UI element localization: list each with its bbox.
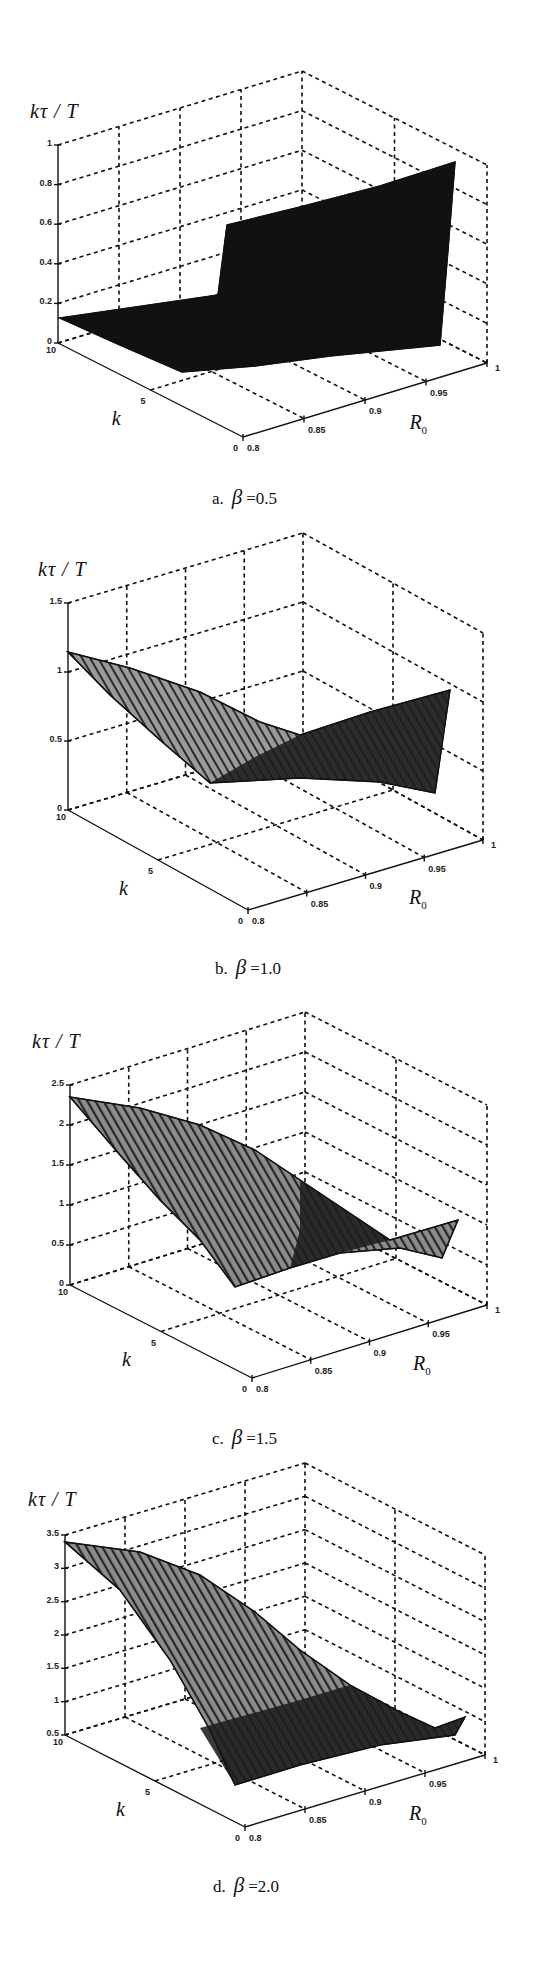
r0-tick-label: 0.95 [429,1779,447,1789]
z-tick-label: 0.2 [30,296,52,306]
z-tick-label: 1 [37,1695,59,1705]
z-tick-label: 0.5 [42,1238,64,1248]
k-axis [70,1285,252,1378]
k-tick-label: 0 [242,1384,247,1394]
z-tick-label: 1.5 [37,1661,59,1671]
grid-line [158,790,393,860]
caption-letter: c. [212,1429,224,1448]
z-axis-label: kτ / T [30,100,79,123]
z-tick-label: 0.5 [40,734,62,744]
chart-panel-a [54,71,487,441]
surface [68,652,450,793]
panel-caption-a: a.β=0.5 [212,485,277,510]
r0-tick-label: 1 [493,1755,498,1765]
z-tick-label: 2 [42,1118,64,1128]
k-tick-label: 5 [148,866,153,876]
caption-value: =2.0 [248,1877,279,1896]
k-tick-label: 0 [238,916,243,926]
z-tick-label: 3 [37,1561,59,1571]
panel-caption-c: c.β=1.5 [212,1425,277,1450]
r0-tick-label: 0.85 [309,1815,327,1825]
r0-axis-label: R0 [409,1802,427,1827]
caption-letter: d. [213,1877,226,1896]
k-axis [68,810,248,910]
r0-tick-label: 0.95 [432,1329,450,1339]
r0-tick-label: 0.85 [308,425,326,435]
chart-panel-d [61,1463,485,1831]
r0-axis-label: R0 [409,411,427,436]
chart-panel-b [64,533,483,914]
beta-symbol: β [236,955,246,979]
beta-symbol: β [232,1425,242,1449]
z-tick-label: 0.4 [30,257,52,267]
z-tick-label: 1 [30,138,52,148]
z-axis-label: kτ / T [38,558,87,581]
r0-tick-label: 0.9 [369,406,382,416]
r0-tick-label: 0.8 [249,1833,262,1843]
caption-value: =0.5 [246,489,277,508]
chart-panel-c [66,1012,487,1382]
r0-tick-label: 0.95 [428,864,446,874]
r0-tick-label: 1 [491,840,496,850]
r0-tick-label: 1 [495,363,500,373]
k-tick-label: 5 [145,1787,150,1797]
z-tick-label: 2.5 [37,1595,59,1605]
k-axis-label: k [122,1348,131,1371]
z-axis-label: kτ / T [28,1488,77,1511]
r0-tick-label: 0.9 [369,1797,382,1807]
r0-tick-label: 0.8 [247,443,260,453]
z-axis-label: kτ / T [32,1030,81,1053]
surface-shadow [290,1180,390,1268]
k-tick-label: 10 [58,1287,68,1297]
z-tick-label: 1.5 [42,1158,64,1168]
k-tick-label: 0 [235,1833,240,1843]
panel-caption-d: d.β=2.0 [213,1873,279,1898]
r0-tick-label: 0.8 [252,916,265,926]
k-tick-label: 5 [151,1338,156,1348]
z-tick-label: 2.5 [42,1078,64,1088]
r0-tick-label: 0.8 [256,1384,269,1394]
caption-letter: a. [212,489,224,508]
k-axis-label: k [116,1798,125,1821]
k-axis-label: k [119,877,128,900]
panel-caption-b: b.β=1.0 [215,955,281,980]
figure-canvas [0,0,537,1986]
k-tick-label: 10 [46,345,56,355]
caption-letter: b. [215,959,228,978]
caption-value: =1.5 [246,1429,277,1448]
z-tick-label: 1 [40,665,62,675]
r0-tick-label: 0.95 [430,388,448,398]
r0-axis-label: R0 [409,886,427,911]
k-tick-label: 10 [53,1737,63,1747]
z-tick-label: 2 [37,1628,59,1638]
caption-value: =1.0 [250,959,281,978]
r0-tick-label: 0.85 [315,1366,333,1376]
z-tick-label: 0.8 [30,178,52,188]
k-tick-label: 5 [141,396,146,406]
z-tick-label: 0.6 [30,217,52,227]
beta-symbol: β [234,1873,244,1897]
r0-tick-label: 0.9 [374,1348,387,1358]
k-axis-label: k [112,407,121,430]
r0-tick-label: 0.9 [370,881,383,891]
k-tick-label: 0 [233,443,238,453]
k-tick-label: 10 [56,812,66,822]
beta-symbol: β [232,485,242,509]
z-tick-label: 1 [42,1198,64,1208]
z-tick-label: 3.5 [37,1528,59,1538]
r0-axis-label: R0 [413,1352,431,1377]
r0-tick-label: 1 [495,1305,500,1315]
z-tick-label: 1.5 [40,596,62,606]
r0-tick-label: 0.85 [311,899,329,909]
